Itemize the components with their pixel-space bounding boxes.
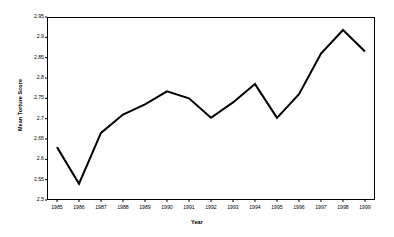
x-axis-tick-labels: 1985198619871988198919901991199219931994… — [0, 0, 394, 237]
x-axis-title: Year — [0, 219, 394, 225]
x-axis-tick-label: 1999 — [350, 205, 380, 210]
line-chart: Mean Torture Score 2.952.92.852.82.752.7… — [0, 0, 394, 237]
